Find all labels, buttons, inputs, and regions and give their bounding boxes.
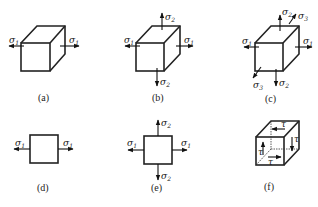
svg-text:σ2: σ2 xyxy=(165,12,175,23)
svg-text:σ3: σ3 xyxy=(253,80,263,91)
svg-text:σ1: σ1 xyxy=(181,138,191,149)
svg-text:σ1: σ1 xyxy=(63,138,73,149)
sigma1-arrow-right: σ1 xyxy=(295,36,313,47)
svg-text:σ1: σ1 xyxy=(303,36,313,47)
svg-text:σ1: σ1 xyxy=(124,35,134,46)
caption-e: (e) xyxy=(151,182,162,194)
sigma1-arrow-right: σ1 xyxy=(60,35,79,46)
square-e xyxy=(144,136,172,164)
svg-text:σ1: σ1 xyxy=(127,138,137,149)
svg-text:σ1: σ1 xyxy=(15,138,25,149)
sigma1-arrow-right: σ1 xyxy=(172,138,191,150)
panel-d: σ1 σ1 (d) xyxy=(14,135,73,194)
sigma2-arrow-up: σ2 xyxy=(280,7,292,31)
cube-a xyxy=(21,26,65,71)
panel-a: σ1 σ1 (a) xyxy=(9,26,79,104)
sigma2-arrow-down: σ2 xyxy=(276,69,289,89)
svg-text:σ1: σ1 xyxy=(9,35,19,46)
svg-text:σ2: σ2 xyxy=(160,77,170,88)
svg-text:σ2: σ2 xyxy=(161,171,171,182)
square-d xyxy=(30,135,58,163)
caption-a: (a) xyxy=(38,92,49,104)
sigma2-arrow-up: σ2 xyxy=(162,12,175,30)
caption-d: (d) xyxy=(37,182,49,194)
cube-c xyxy=(255,26,299,71)
svg-text:σ1: σ1 xyxy=(242,36,252,47)
caption-b: (b) xyxy=(152,92,164,104)
sigma1-arrow-left: σ1 xyxy=(14,138,30,149)
sigma1-arrow-right: σ1 xyxy=(58,138,73,149)
panel-b: σ1 σ1 σ2 σ2 (b) xyxy=(124,12,194,104)
sigma1-arrow-right: σ1 xyxy=(176,35,194,46)
stress-states-diagram: σ1 σ1 (a) σ1 σ1 σ2 σ2 (b) xyxy=(0,0,318,207)
svg-text:σ2: σ2 xyxy=(282,7,292,18)
caption-f: (f) xyxy=(264,181,274,193)
svg-text:σ3: σ3 xyxy=(298,11,308,22)
svg-text:σ1: σ1 xyxy=(69,35,79,46)
panel-c: σ1 σ1 σ2 σ3 σ3 σ2 (c) xyxy=(242,7,313,105)
panel-f: τ τ τ τ (f) xyxy=(256,119,300,193)
svg-text:σ2: σ2 xyxy=(279,78,289,89)
svg-text:σ1: σ1 xyxy=(184,35,194,46)
cube-b xyxy=(136,26,180,71)
panel-e: σ1 σ1 σ2 σ2 (e) xyxy=(127,118,191,194)
sigma2-arrow-down: σ2 xyxy=(158,164,171,182)
svg-text:σ2: σ2 xyxy=(161,118,171,129)
tau-arrow-left: τ xyxy=(258,142,264,157)
sigma1-arrow-left: σ1 xyxy=(127,138,144,150)
caption-c: (c) xyxy=(265,93,276,105)
sigma2-arrow-up: σ2 xyxy=(158,118,171,136)
